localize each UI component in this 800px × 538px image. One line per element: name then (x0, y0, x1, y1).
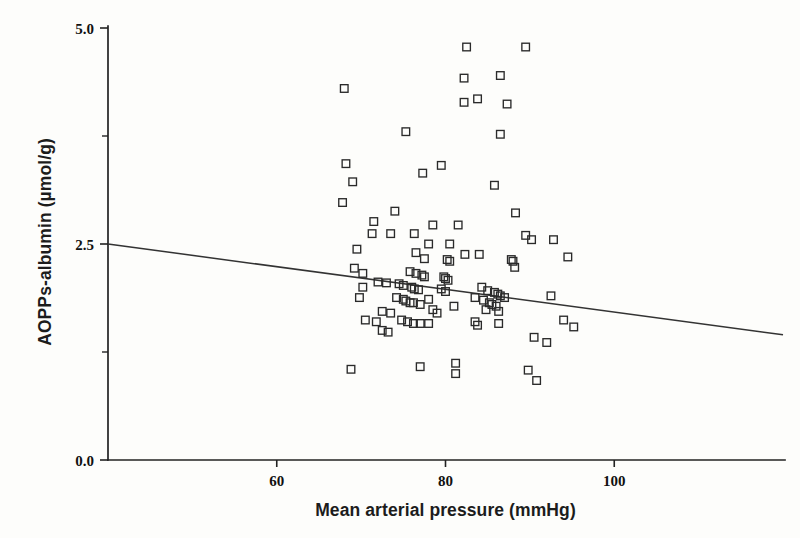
data-point (497, 130, 505, 138)
data-point (503, 100, 511, 108)
data-point (340, 85, 348, 93)
data-point (383, 279, 391, 287)
data-point (402, 128, 410, 136)
y-tick-label: 2.5 (75, 237, 94, 253)
data-point (351, 264, 359, 272)
data-point (533, 377, 541, 385)
data-point (359, 283, 367, 291)
data-point (460, 74, 468, 82)
data-point (347, 365, 355, 373)
data-point (452, 359, 460, 367)
data-point (391, 207, 399, 215)
data-point (356, 294, 364, 302)
data-point (425, 240, 433, 248)
data-point (512, 209, 520, 217)
data-point (446, 240, 454, 248)
data-point (412, 249, 420, 257)
data-point (362, 316, 370, 324)
data-point (460, 99, 468, 107)
figure-container: AOPPs-albumin (µmol/g) Mean arterial pre… (0, 0, 800, 538)
data-point (560, 316, 568, 324)
x-tick-label: 60 (269, 473, 284, 489)
data-point (342, 160, 350, 168)
data-point (497, 72, 505, 80)
scatter-plot: 60801000.02.55.0 (0, 0, 800, 538)
data-point (425, 296, 433, 304)
y-tick-label: 0.0 (75, 453, 94, 469)
data-point (547, 292, 555, 300)
data-point (522, 43, 530, 51)
data-point (421, 255, 429, 263)
data-points-group (339, 43, 578, 384)
data-point (353, 245, 361, 253)
data-point (461, 251, 469, 259)
data-point (387, 230, 395, 238)
data-point (419, 169, 427, 177)
x-tick-label: 80 (438, 473, 453, 489)
tick-labels-group: 60801000.02.55.0 (75, 21, 625, 489)
x-tick-label: 100 (603, 473, 626, 489)
data-point (475, 251, 483, 259)
data-point (437, 162, 445, 170)
data-point (378, 308, 386, 316)
data-point (471, 294, 479, 302)
data-point (416, 363, 424, 371)
data-point (339, 199, 347, 207)
data-point (543, 339, 551, 347)
data-point (495, 320, 503, 328)
axes-group (100, 26, 785, 467)
data-point (429, 221, 437, 229)
data-point (570, 323, 578, 331)
data-point (370, 218, 378, 226)
data-point (450, 302, 458, 310)
data-point (524, 366, 532, 374)
data-point (452, 370, 460, 378)
data-point (530, 334, 538, 342)
data-point (491, 181, 499, 189)
y-tick-label: 5.0 (75, 21, 94, 37)
data-point (454, 221, 462, 229)
data-point (349, 178, 357, 186)
data-point (387, 309, 395, 317)
data-point (463, 43, 471, 51)
data-point (410, 230, 418, 238)
data-point (359, 270, 367, 278)
data-point (550, 236, 558, 244)
data-point (564, 253, 572, 261)
data-point (373, 318, 381, 326)
data-point (474, 95, 482, 103)
data-point (368, 230, 376, 238)
data-point (425, 320, 433, 328)
